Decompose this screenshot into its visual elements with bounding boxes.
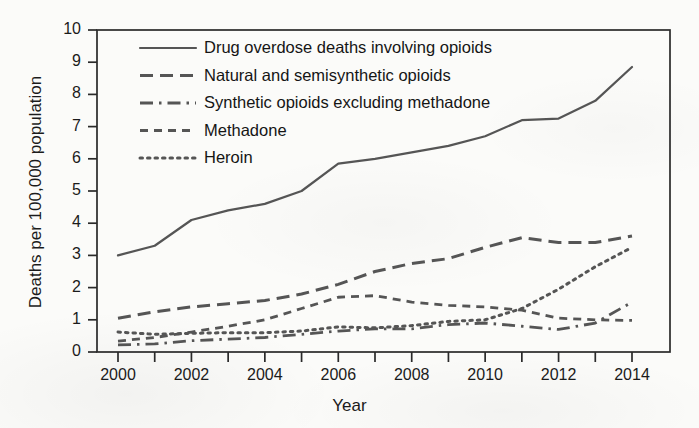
legend-entry-label: Drug overdose deaths involving opioids bbox=[204, 38, 492, 57]
series-line bbox=[118, 302, 632, 345]
y-tick-label: 3 bbox=[41, 245, 81, 263]
legend-entry-label: Synthetic opioids excluding methadone bbox=[204, 93, 490, 112]
x-tick-label: 2002 bbox=[161, 366, 221, 384]
legend-swatches bbox=[140, 48, 196, 158]
y-tick-label: 5 bbox=[41, 181, 81, 199]
y-tick-label: 7 bbox=[41, 117, 81, 135]
y-tick-label: 1 bbox=[41, 310, 81, 328]
x-tick-label: 2010 bbox=[455, 366, 515, 384]
x-tick-label: 2006 bbox=[308, 366, 368, 384]
y-tick-label: 0 bbox=[41, 342, 81, 360]
y-tick-label: 4 bbox=[41, 213, 81, 231]
legend-entry-label: Heroin bbox=[204, 148, 253, 167]
x-tick-label: 2012 bbox=[529, 366, 589, 384]
y-tick-label: 6 bbox=[41, 149, 81, 167]
series-line bbox=[118, 236, 632, 318]
y-axis-ticks bbox=[88, 30, 97, 352]
opioid-death-rate-figure: 012345678910 200020022004200620082010201… bbox=[0, 0, 699, 428]
chart-plot-area bbox=[0, 0, 699, 428]
y-tick-label: 10 bbox=[41, 20, 81, 38]
y-axis-title: Deaths per 100,000 population bbox=[26, 62, 46, 322]
y-tick-label: 9 bbox=[41, 52, 81, 70]
y-tick-label: 2 bbox=[41, 278, 81, 296]
x-tick-label: 2000 bbox=[88, 366, 148, 384]
x-tick-label: 2008 bbox=[382, 366, 442, 384]
x-axis-ticks bbox=[118, 352, 632, 362]
x-axis-title: Year bbox=[0, 396, 699, 416]
y-tick-label: 8 bbox=[41, 84, 81, 102]
x-tick-label: 2004 bbox=[235, 366, 295, 384]
x-tick-label: 2014 bbox=[602, 366, 662, 384]
legend-entry-label: Methadone bbox=[204, 121, 287, 140]
series-line bbox=[118, 247, 632, 334]
legend-entry-label: Natural and semisynthetic opioids bbox=[204, 66, 451, 85]
